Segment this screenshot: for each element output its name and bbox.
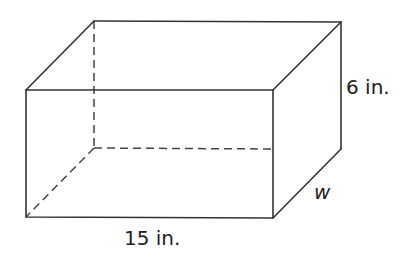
height-label: 6 in.: [346, 77, 390, 97]
hidden-edge-back-bottom: [94, 148, 273, 149]
front-face: [26, 90, 273, 218]
length-label: 15 in.: [124, 228, 180, 248]
edge-bottom-right-depth: [273, 149, 341, 218]
diagram-canvas: 6 in. 15 in. w: [0, 0, 414, 257]
edge-top-back: [94, 21, 341, 22]
edge-top-left-depth: [26, 21, 94, 90]
rectangular-prism: [0, 0, 414, 257]
width-label: w: [314, 182, 330, 202]
hidden-edge-bottom-left-depth: [26, 148, 94, 217]
edge-top-right-depth: [273, 22, 341, 90]
